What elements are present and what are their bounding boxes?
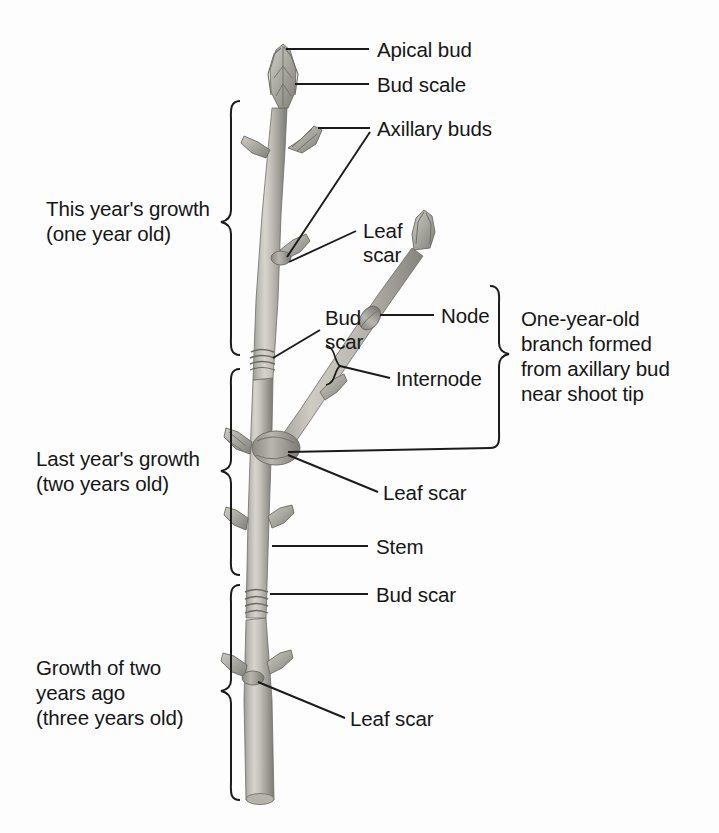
brace-branch-leader (288, 448, 490, 452)
axillary-bud-upper (288, 126, 322, 153)
lateral-branch-apical-bud (412, 210, 435, 250)
stem-segment-three-years-old (244, 618, 274, 800)
branch-fork-junction (252, 431, 300, 465)
label-bud-scar-lower: Bud scar (376, 582, 456, 607)
axillary-bud-left-lower (224, 507, 248, 530)
label-bud-scale: Bud scale (377, 72, 466, 97)
figure-canvas: Apical bud Bud scale Axillary buds Leaf … (0, 0, 719, 833)
stem-segment-two-years-old (246, 378, 273, 618)
brace-last-years-growth (221, 369, 240, 575)
label-node: Node (441, 303, 490, 328)
label-leaf-scar-lower: Leaf scar (350, 706, 433, 731)
apical-bud (268, 44, 298, 108)
label-stem: Stem (376, 534, 423, 559)
bracket-label-this-years-growth: This year's growth (one year old) (46, 196, 210, 246)
leader-bud-scar-up (273, 330, 320, 358)
label-internode: Internode (396, 366, 482, 391)
axillary-bud-fork-left (224, 428, 252, 454)
twig-illustration (221, 44, 435, 805)
label-axillary-buds: Axillary buds (377, 116, 492, 141)
axillary-bud-right-lower (268, 505, 294, 528)
label-bud-scar-upper: Bud scar (325, 306, 363, 354)
label-leaf-scar-mid: Leaf scar (383, 480, 466, 505)
axillary-bud-upper-left (241, 136, 270, 158)
leader-internode-stub (340, 366, 390, 378)
bracket-label-last-years-growth: Last year's growth (two years old) (36, 446, 200, 496)
bracket-label-growth-two-years-ago: Growth of two years ago (three years old… (36, 655, 184, 730)
brace-this-years-growth (221, 101, 240, 355)
bracket-label-one-year-old-branch: One-year-old branch formed from axillary… (521, 306, 670, 406)
brace-growth-two-years-ago (221, 585, 240, 800)
leader-leaf-scar-mid (288, 455, 378, 492)
brace-one-year-old-branch (490, 286, 509, 448)
label-leaf-scar-upper: Leaf scar (363, 219, 403, 267)
leaf-scar-upper-shape (271, 251, 291, 265)
label-apical-bud: Apical bud (377, 37, 472, 62)
stem-cut-base (246, 794, 274, 805)
